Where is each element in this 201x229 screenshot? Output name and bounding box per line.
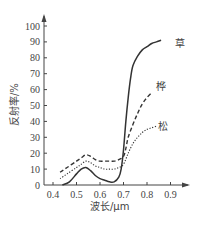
x-axis-arrow-icon bbox=[182, 183, 190, 188]
y-tick-label: 10 bbox=[30, 164, 40, 175]
y-tick-label: 0 bbox=[35, 180, 40, 191]
x-tick-label: 0.6 bbox=[94, 189, 107, 200]
y-tick-label: 30 bbox=[30, 132, 40, 143]
y-tick-label: 70 bbox=[30, 68, 40, 79]
series-label-grass: 草 bbox=[175, 38, 185, 49]
x-tick-label: 0.4 bbox=[47, 189, 60, 200]
reflectance-chart: 01020304050607080901000.40.50.60.70.80.9… bbox=[0, 0, 201, 229]
series-lines bbox=[60, 40, 161, 185]
y-tick-label: 100 bbox=[25, 21, 40, 32]
axes bbox=[42, 14, 191, 188]
series-label-birch: 桦 bbox=[156, 80, 166, 92]
y-tick-label: 90 bbox=[30, 36, 40, 47]
x-axis-label: 波长/μm bbox=[90, 200, 129, 212]
ticks: 01020304050607080901000.40.50.60.70.80.9 bbox=[25, 21, 177, 201]
y-tick-label: 20 bbox=[30, 148, 40, 159]
y-tick-label: 60 bbox=[30, 84, 40, 95]
x-tick-label: 0.7 bbox=[117, 189, 130, 200]
series-label-pine: 松 bbox=[158, 120, 168, 132]
y-tick-label: 50 bbox=[30, 100, 40, 111]
x-tick-label: 0.8 bbox=[141, 189, 154, 200]
x-tick-label: 0.9 bbox=[164, 189, 177, 200]
y-tick-label: 40 bbox=[30, 116, 40, 127]
series-line-birch bbox=[60, 93, 152, 173]
y-axis-label: 反射率/% bbox=[8, 83, 20, 126]
y-tick-label: 80 bbox=[30, 52, 40, 63]
series-line-grass bbox=[62, 40, 161, 185]
y-axis-arrow-icon bbox=[42, 14, 47, 22]
x-tick-label: 0.5 bbox=[70, 189, 83, 200]
series-line-pine bbox=[60, 126, 156, 178]
